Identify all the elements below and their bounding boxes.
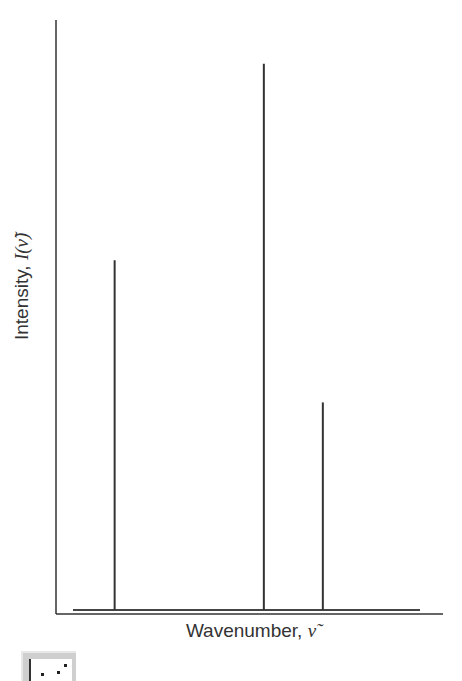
y-axis-label-text: Intensity, [11, 260, 32, 340]
x-axis-label-symbol: ν̃ [308, 620, 316, 641]
y-axis-label: Intensity, I(ν̃) [11, 233, 33, 340]
plot-area [0, 0, 462, 640]
chart-icon-canvas [29, 659, 72, 681]
chart-icon-dot [64, 664, 67, 667]
x-axis-label: Wavenumber, ν̃ [0, 620, 462, 642]
chart-icon-dot [41, 673, 44, 676]
y-axis-label-symbol: I(ν̃) [11, 233, 32, 260]
spectrum-chart: Intensity, I(ν̃) Wavenumber, ν̃ [0, 0, 462, 640]
x-axis-label-text: Wavenumber, [186, 620, 308, 641]
chart-icon[interactable] [21, 651, 76, 681]
peaks-group [115, 64, 323, 610]
chart-icon-dot [57, 671, 60, 674]
